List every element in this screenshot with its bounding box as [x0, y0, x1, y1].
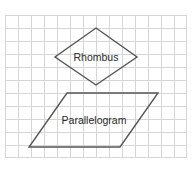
parallelogram-label: Parallelogram [62, 114, 127, 126]
diagram-canvas: Rhombus Parallelogram [0, 0, 195, 170]
rhombus-label: Rhombus [74, 51, 119, 63]
shapes-layer [0, 0, 195, 170]
